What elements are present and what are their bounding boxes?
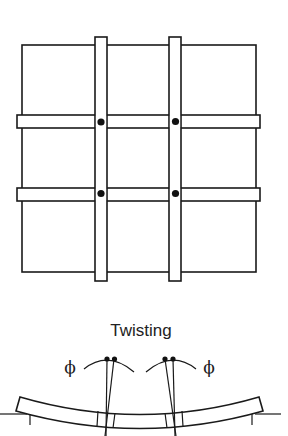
pivot-dot — [162, 356, 167, 361]
pivot-dot — [104, 356, 109, 361]
phi-label-left: ϕ — [64, 357, 76, 377]
vertical-strip-2 — [169, 37, 181, 281]
rib — [97, 411, 98, 426]
rib — [182, 411, 183, 426]
twisting-diagram: Twisting ϕ ϕ — [0, 0, 288, 436]
twisting-section: Twisting ϕ ϕ — [0, 321, 281, 436]
intersection-dot — [97, 190, 104, 197]
plan-view-grid — [17, 37, 260, 281]
intersection-dot — [172, 118, 179, 125]
rotation-arc-left — [84, 360, 134, 372]
phi-label-right: ϕ — [203, 357, 215, 377]
vertical-strip-1 — [95, 37, 107, 281]
pivot-dot — [170, 356, 175, 361]
horizontal-strip-1 — [17, 115, 260, 128]
section-title: Twisting — [110, 321, 171, 340]
slab-outline — [22, 45, 256, 272]
intersection-dot — [172, 190, 179, 197]
pivot-dot — [112, 356, 117, 361]
horizontal-strip-2 — [17, 188, 260, 201]
rotation-arc-right — [146, 360, 196, 372]
intersection-dot — [97, 118, 104, 125]
rib — [113, 413, 115, 428]
deflected-beam — [16, 397, 263, 429]
rib — [165, 413, 167, 428]
